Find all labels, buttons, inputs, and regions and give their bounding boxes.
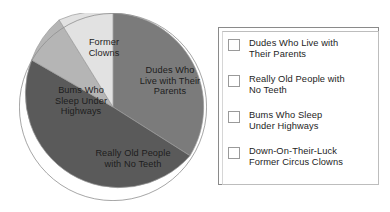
- legend-item-bums[interactable]: Bums Who Sleep Under Highways: [228, 110, 380, 146]
- legend-swatch-clowns: [228, 147, 240, 159]
- legend-item-dudes[interactable]: Dudes Who Live with Their Parents: [228, 38, 380, 74]
- legend-item-clowns[interactable]: Down-On-Their-Luck Former Circus Clowns: [228, 146, 380, 182]
- legend-swatch-bums: [228, 111, 240, 123]
- pie-chart: Dudes Who Live with Their Parents Really…: [19, 13, 207, 201]
- legend-label-clowns: Down-On-Their-Luck Former Circus Clowns: [249, 146, 343, 169]
- legend: Dudes Who Live with Their Parents Really…: [228, 38, 380, 184]
- legend-label-dudes: Dudes Who Live with Their Parents: [249, 38, 338, 61]
- pie-svg: [19, 13, 207, 201]
- legend-label-old-people: Really Old People with No Teeth: [249, 74, 345, 97]
- legend-label-bums: Bums Who Sleep Under Highways: [249, 110, 322, 133]
- legend-swatch-dudes: [228, 39, 240, 51]
- legend-swatch-old-people: [228, 75, 240, 87]
- pie-chart-figure: Dudes Who Live with Their Parents Really…: [0, 0, 390, 212]
- legend-item-old-people[interactable]: Really Old People with No Teeth: [228, 74, 380, 110]
- pie-slices: [25, 13, 203, 188]
